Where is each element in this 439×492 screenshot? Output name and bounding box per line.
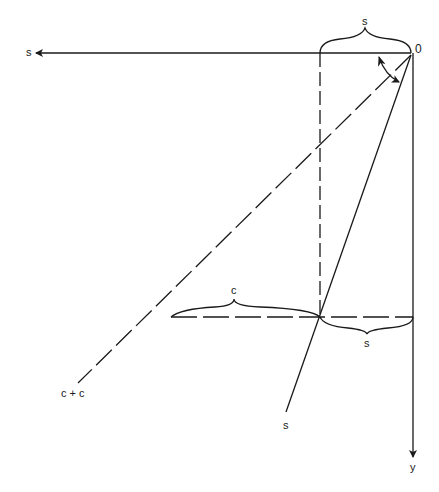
bottom-brace-label: s (364, 338, 370, 349)
c-plus-c-label: c + c (61, 388, 85, 399)
top-brace (320, 28, 411, 53)
solid-s-line (286, 55, 411, 412)
bottom-brace (320, 317, 413, 334)
s-axis-label: s (26, 47, 32, 58)
y-axis-label: y (410, 462, 416, 473)
c-brace-label: c (231, 285, 237, 296)
c-brace (171, 299, 320, 317)
top-brace-label: s (362, 16, 368, 27)
s-line-label: s (283, 420, 289, 431)
geometric-diagram (0, 0, 439, 492)
origin-label: 0 (415, 43, 422, 55)
dashed-diagonal-line (78, 55, 411, 383)
